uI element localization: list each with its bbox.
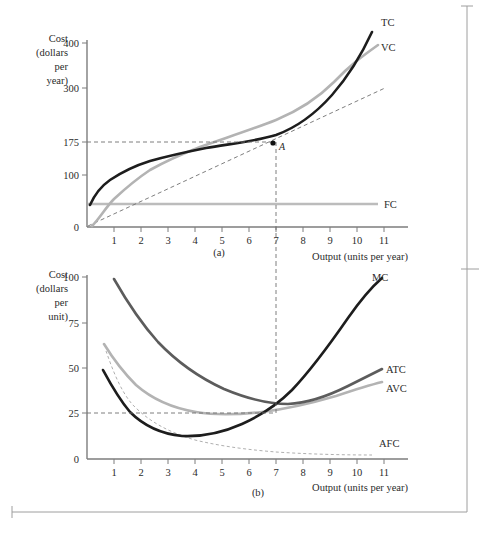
panel-b-xtick-4: 4	[192, 467, 198, 478]
panel-b-ytick-0: 0	[74, 454, 79, 465]
panel-a-ytick-175: 175	[63, 137, 79, 148]
panel-b: Cost (dollars per unit) 100 75 50 25 0	[36, 262, 409, 499]
panel-a-x-ticks: 1 2 3 4 5 6 7 8 9 10 11	[111, 227, 389, 246]
panel-a-xtick-11: 11	[379, 235, 389, 246]
panel-b-y-title-line-1: (dollars	[36, 283, 68, 295]
panel-a-y-title-line-2: per	[55, 61, 69, 72]
panel-a-ytick-100: 100	[63, 170, 79, 181]
panel-a-xtick-4: 4	[192, 235, 198, 246]
panel-b-label-mc: MC	[372, 272, 388, 283]
panel-a-ytick-0: 0	[74, 222, 79, 233]
panel-a-xtick-3: 3	[165, 235, 170, 246]
panel-a-label-fc: FC	[384, 199, 397, 210]
panel-b-ytick-100: 100	[63, 272, 79, 283]
panel-a-curve-vc	[92, 45, 378, 226]
panel-b-y-title-line-2: per	[55, 297, 69, 308]
panel-b-xtick-2: 2	[138, 467, 143, 478]
panel-a-xtick-2: 2	[138, 235, 143, 246]
panel-b-x-axis-title: Output (units per year)	[312, 482, 408, 494]
panel-a-tangent-ray	[88, 88, 385, 226]
panel-a-point-a-marker	[270, 140, 275, 145]
panel-b-xtick-1: 1	[111, 467, 116, 478]
panel-b-xtick-10: 10	[352, 467, 363, 478]
panel-b-label-afc: AFC	[379, 438, 399, 449]
panel-a-xtick-1: 1	[111, 235, 116, 246]
panel-b-x-ticks: 1 2 3 4 5 6 7 8 9 10 11	[111, 459, 389, 478]
panel-b-ytick-75: 75	[69, 318, 80, 329]
panel-b-xtick-3: 3	[165, 467, 170, 478]
panel-a-point-a-label: A	[278, 141, 286, 152]
panel-b-xtick-6: 6	[246, 467, 251, 478]
panel-a-x-axis-title: Output (units per year)	[312, 251, 408, 263]
panel-a-xtick-5: 5	[219, 235, 224, 246]
panel-a: Cost (dollars per year) 400 300 175 100 …	[36, 17, 409, 263]
panel-b-curve-atc	[114, 279, 382, 404]
panel-a-xtick-10: 10	[352, 235, 363, 246]
panel-a-caption: (a)	[213, 247, 225, 259]
panel-a-xtick-9: 9	[327, 235, 332, 246]
panel-a-ytick-300: 300	[63, 83, 79, 94]
panel-a-xtick-6: 6	[246, 235, 251, 246]
panel-b-curve-afc	[106, 351, 372, 455]
panel-b-ytick-25: 25	[69, 408, 80, 419]
panel-b-y-title-line-3: unit)	[48, 311, 68, 323]
economics-cost-curves-figure: Cost (dollars per year) 400 300 175 100 …	[0, 0, 479, 534]
panel-b-xtick-7: 7	[273, 467, 278, 478]
panel-b-xtick-8: 8	[300, 467, 305, 478]
panel-a-ytick-400: 400	[63, 38, 79, 49]
panel-a-xtick-8: 8	[300, 235, 305, 246]
panel-b-label-atc: ATC	[386, 364, 406, 375]
panel-a-label-vc: VC	[381, 42, 396, 53]
panel-b-ytick-50: 50	[69, 363, 80, 374]
panel-a-curve-tc	[90, 32, 372, 205]
panel-b-caption: (b)	[252, 487, 265, 499]
panel-b-xtick-11: 11	[379, 467, 389, 478]
panel-b-xtick-9: 9	[327, 467, 332, 478]
panel-b-label-avc: AVC	[386, 383, 407, 394]
panel-a-label-tc: TC	[381, 17, 394, 28]
page-border-rules	[12, 6, 479, 518]
panel-b-xtick-5: 5	[219, 467, 224, 478]
panel-b-curve-avc	[104, 344, 382, 414]
